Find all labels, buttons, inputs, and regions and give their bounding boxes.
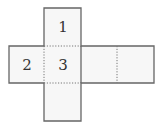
- face-label-2: 2: [9, 58, 45, 73]
- face-bottom: [44, 83, 81, 121]
- face-label-3: 3: [45, 58, 81, 73]
- face-label-1: 1: [45, 20, 81, 35]
